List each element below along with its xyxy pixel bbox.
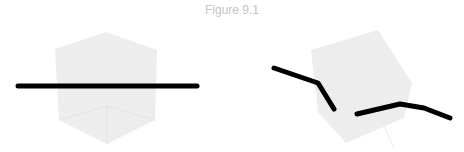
figure-canvas	[0, 0, 464, 152]
right-cube	[311, 30, 412, 143]
right-panel	[274, 30, 450, 146]
left-panel	[18, 32, 197, 144]
